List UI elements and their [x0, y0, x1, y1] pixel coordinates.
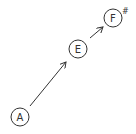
node-a: A	[11, 108, 29, 126]
sharp-accidental: #	[122, 7, 129, 16]
node-a-label: A	[17, 112, 24, 123]
node-e: E	[69, 40, 87, 58]
node-e-label: E	[75, 44, 81, 55]
node-fsharp-label: F	[110, 13, 116, 24]
edge-a-to-e	[30, 62, 66, 106]
edge-e-to-fsharp	[90, 27, 103, 38]
node-fsharp: F #	[104, 7, 129, 27]
note-path-diagram: A E F #	[0, 0, 136, 134]
